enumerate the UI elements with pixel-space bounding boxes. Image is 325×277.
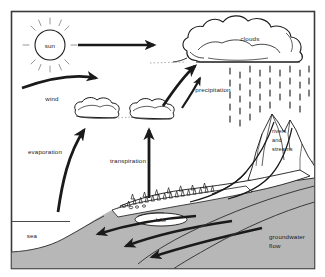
label-rivers-line1: rivers [272,128,286,134]
label-precipitation: precipitation [195,86,231,93]
label-rivers-line2: and [272,137,282,143]
label-transpiration: transpiration [110,157,146,164]
label-sun: sun [45,42,56,49]
label-rivers-line3: streams [272,146,293,152]
label-sea: sea [27,232,38,239]
water-cycle-diagram: sun wind evaporation transpiration cloud… [0,0,325,277]
label-evaporation: evaporation [28,148,62,155]
label-wind: wind [44,95,59,102]
label-groundwater-line1: groundwater [269,233,305,240]
label-lake: lake [156,217,167,223]
diagram-canvas: sun wind evaporation transpiration cloud… [0,0,325,277]
label-clouds: clouds [241,35,260,42]
label-groundwater-line2: flow [269,242,281,249]
